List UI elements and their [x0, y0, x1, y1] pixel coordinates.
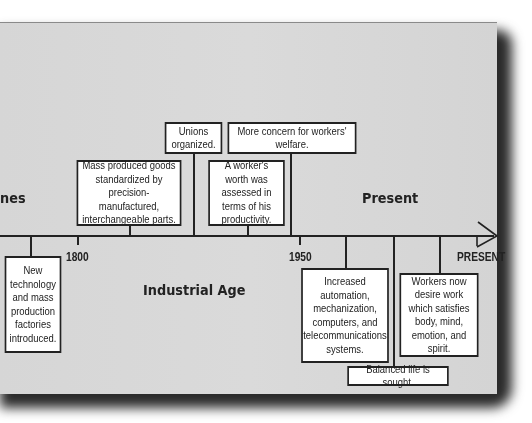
event-box-mass-produced: Mass produced goods standardized by prec…: [77, 160, 182, 226]
event-box-unions: Unions organized.: [165, 122, 223, 154]
era-label-present: Present: [362, 190, 418, 206]
event-text: A worker's worth was assessed in terms o…: [213, 159, 281, 227]
arrowhead-icon: [470, 215, 500, 251]
era-label-partial: nes: [0, 190, 26, 206]
event-box-workers-now: Workers now desire work which satisfies …: [399, 273, 478, 357]
event-text: Workers now desire work which satisfies …: [404, 275, 475, 356]
event-text: Unions organized.: [169, 125, 218, 152]
year-label-present: PRESENT: [457, 250, 505, 264]
connector-new-technology: [30, 236, 32, 258]
event-text: Increased automation, mechanization, com…: [303, 275, 387, 356]
connector-balanced-life: [393, 236, 395, 367]
era-label-industrial-age: Industrial Age: [143, 282, 245, 298]
year-label-1800: 1800: [66, 250, 89, 264]
connector-workers-now: [439, 236, 441, 274]
tick-1950: [299, 236, 301, 245]
event-box-welfare: More concern for workers' welfare.: [228, 122, 357, 154]
connector-automation: [345, 236, 347, 269]
event-box-automation: Increased automation, mechanization, com…: [301, 268, 389, 363]
tick-1800: [77, 236, 79, 245]
event-text: New technology and mass production facto…: [9, 264, 57, 345]
event-box-new-technology: New technology and mass production facto…: [5, 256, 62, 353]
connector-unions: [193, 152, 195, 236]
event-box-workers-worth: A worker's worth was assessed in terms o…: [208, 160, 285, 226]
event-box-balanced-life: Balanced life is sought.: [347, 366, 448, 386]
year-label-1950: 1950: [289, 250, 312, 264]
event-text: Balanced life is sought.: [352, 363, 445, 390]
event-text: More concern for workers' welfare.: [232, 125, 352, 152]
connector-welfare: [290, 152, 292, 236]
event-text: Mass produced goods standardized by prec…: [81, 159, 177, 227]
